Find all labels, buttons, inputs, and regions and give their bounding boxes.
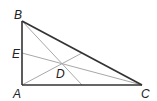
cevian-b-to-ac (22, 21, 82, 85)
label-b: B (14, 8, 22, 22)
triangle-diagram: B E D A C (0, 0, 157, 101)
label-e: E (12, 47, 21, 61)
label-a: A (12, 87, 21, 101)
label-c: C (141, 87, 150, 101)
cevian-a-to-bc (22, 53, 82, 85)
label-d: D (56, 67, 65, 81)
cevian-e-to-c (22, 53, 142, 85)
